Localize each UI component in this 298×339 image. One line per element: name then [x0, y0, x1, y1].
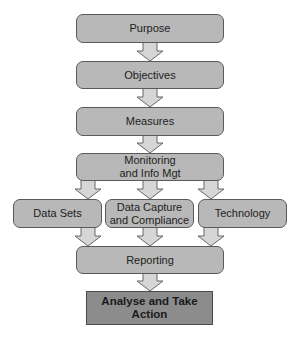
node-purpose-label: Purpose [130, 22, 171, 35]
node-purpose: Purpose [76, 14, 224, 43]
node-reporting-label: Reporting [126, 254, 174, 267]
node-reporting: Reporting [76, 246, 224, 274]
arrow-datasets-reporting [75, 227, 101, 246]
node-objectives-label: Objectives [124, 69, 175, 82]
node-monitoring: Monitoring and Info Mgt [76, 153, 224, 181]
node-data-sets: Data Sets [13, 199, 102, 228]
node-data-capture-label-line2: and Compliance [110, 214, 190, 227]
node-data-capture: Data Capture and Compliance [105, 199, 194, 228]
arrow-monitoring-technology [198, 180, 224, 199]
node-measures-label: Measures [126, 115, 174, 128]
node-analyse-take-action: Analyse and Take Action [86, 291, 213, 325]
node-data-capture-label-line1: Data Capture [117, 201, 182, 214]
node-technology-label: Technology [215, 207, 271, 220]
node-technology: Technology [198, 199, 287, 228]
node-monitoring-label-line1: Monitoring [124, 154, 175, 167]
arrow-datacapture-reporting [137, 227, 163, 246]
node-analyse-label: Analyse and Take Action [87, 295, 212, 321]
arrow-monitoring-datacapture [137, 180, 163, 199]
node-data-sets-label: Data Sets [33, 207, 81, 220]
arrow-purpose-objectives [137, 42, 163, 61]
arrow-monitoring-datasets [75, 180, 101, 199]
node-objectives: Objectives [76, 61, 224, 89]
arrow-reporting-analyse [137, 273, 163, 291]
arrow-measures-monitoring [137, 135, 163, 153]
node-monitoring-label-line2: and Info Mgt [119, 167, 180, 180]
node-measures: Measures [76, 107, 224, 136]
arrow-technology-reporting [198, 227, 224, 246]
arrow-objectives-measures [137, 88, 163, 107]
